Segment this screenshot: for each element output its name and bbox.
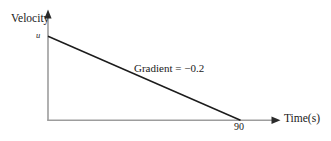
velocity-line-series xyxy=(48,36,241,120)
x-axis-title: Time(s) xyxy=(284,113,320,125)
x-intercept-label: 90 xyxy=(234,122,244,132)
velocity-time-graph: Velocity u Gradient = −0.2 90 Time(s) xyxy=(0,0,331,141)
y-intercept-label: u xyxy=(36,31,40,40)
gradient-annotation: Gradient = −0.2 xyxy=(134,63,204,74)
x-axis-arrowhead-icon xyxy=(272,116,281,124)
y-axis-title: Velocity xyxy=(11,13,49,25)
